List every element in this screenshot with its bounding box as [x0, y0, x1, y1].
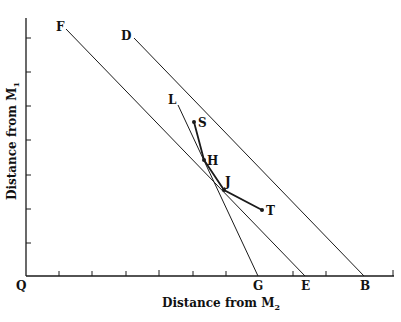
line-LG [178, 105, 258, 276]
label-L: L [168, 93, 177, 107]
label-F: F [56, 20, 65, 34]
x-axis-ticks [59, 270, 393, 276]
line-FE [66, 29, 305, 276]
label-T: T [266, 204, 275, 218]
point-S [192, 120, 196, 124]
label-G: G [253, 279, 263, 293]
location-diagram: F D L S H J T Q G E B Distance from M2 D… [0, 0, 401, 322]
point-H [202, 158, 206, 162]
label-Q: Q [16, 279, 26, 293]
label-H: H [207, 154, 218, 168]
line-DB [134, 38, 364, 276]
x-axis-title: Distance from M2 [162, 296, 280, 312]
label-J: J [224, 175, 231, 189]
label-E: E [301, 279, 310, 293]
label-D: D [121, 29, 131, 43]
point-T [260, 208, 264, 212]
y-axis-title: Distance from M1 [5, 82, 21, 200]
y-axis-ticks [26, 38, 31, 243]
label-S: S [198, 116, 207, 130]
label-B: B [360, 279, 370, 293]
